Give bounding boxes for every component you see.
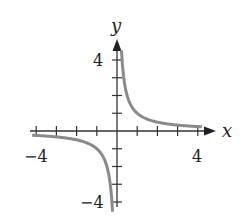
x-axis-arrow-icon	[204, 127, 216, 136]
y-axis-arrow-icon	[113, 39, 122, 51]
y-axis-label: y	[110, 15, 122, 36]
x-max-label: 4	[192, 147, 202, 166]
y-min-label: −4	[80, 193, 104, 212]
x-min-label: −4	[24, 147, 48, 166]
curve-positive-branch	[121, 50, 201, 126]
x-axis-label: x	[222, 120, 232, 141]
y-max-label: 4	[93, 51, 103, 70]
graph: x y −4 4 4 −4	[0, 0, 247, 222]
